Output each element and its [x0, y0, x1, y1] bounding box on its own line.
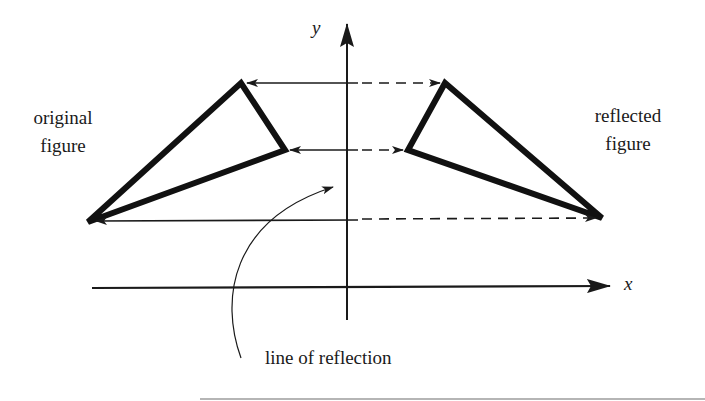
reflected-triangle: [408, 83, 602, 218]
original-label-line1: original: [18, 106, 108, 129]
bottom-arrow-solid: [96, 220, 358, 221]
diagram-graphics: [0, 0, 705, 401]
y-axis-label: y: [312, 16, 320, 39]
original-label-line2: figure: [18, 134, 108, 157]
line-of-reflection-label: line of reflection: [265, 346, 392, 369]
original-triangle: [88, 83, 285, 222]
original-figure-label: original figure: [18, 106, 108, 157]
x-axis-label: x: [624, 272, 632, 295]
reflected-label-line2: figure: [578, 132, 678, 155]
reflection-pointer-curve: [232, 187, 333, 358]
reflected-figure-label: reflected figure: [578, 104, 678, 155]
bottom-arrow-dashed: [362, 218, 596, 219]
reflected-label-line1: reflected: [578, 104, 678, 127]
x-axis: [92, 286, 610, 288]
reflection-diagram: original figure reflected figure y x lin…: [0, 0, 705, 401]
